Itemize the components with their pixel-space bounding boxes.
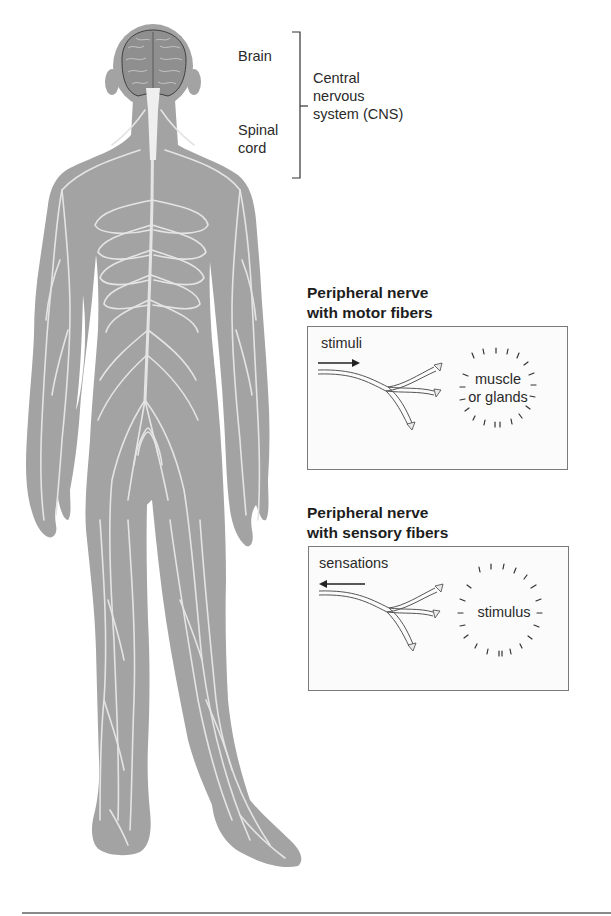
target-label-line2: or glands <box>463 389 533 406</box>
nerve-endings <box>407 363 442 430</box>
cns-label-line2: nervous <box>313 88 365 105</box>
stimulus-label: stimulus <box>464 604 544 621</box>
sensory-panel-heading-line2: with sensory fibers <box>307 523 448 542</box>
motor-panel-heading-line2: with motor fibers <box>307 303 433 322</box>
sensory-panel-heading-line1: Peripheral nerve <box>307 503 428 522</box>
bottom-divider <box>22 912 611 914</box>
cns-bracket <box>288 28 312 182</box>
arrow-right-icon <box>318 359 360 367</box>
motor-panel-heading-line1: Peripheral nerve <box>307 283 428 302</box>
target-label-line1: muscle <box>463 371 533 388</box>
nerve-endings <box>408 584 443 651</box>
nerve-fiber-bundle <box>319 588 437 646</box>
spinal-cord-label-line2: cord <box>238 140 266 157</box>
stimuli-label: stimuli <box>321 335 362 352</box>
sensory-fibers-panel: sensations stimulus <box>308 546 569 691</box>
motor-fibers-panel: stimuli muscle or glands <box>307 326 568 470</box>
cns-label-line3: system (CNS) <box>313 106 403 123</box>
nerve-fiber-bundle <box>318 367 436 425</box>
sensations-label: sensations <box>319 555 388 572</box>
arrow-left-icon <box>319 580 365 588</box>
cns-label-line1: Central <box>313 70 360 87</box>
spinal-cord-label-line1: Spinal <box>238 122 278 139</box>
brain-label: Brain <box>238 48 272 65</box>
